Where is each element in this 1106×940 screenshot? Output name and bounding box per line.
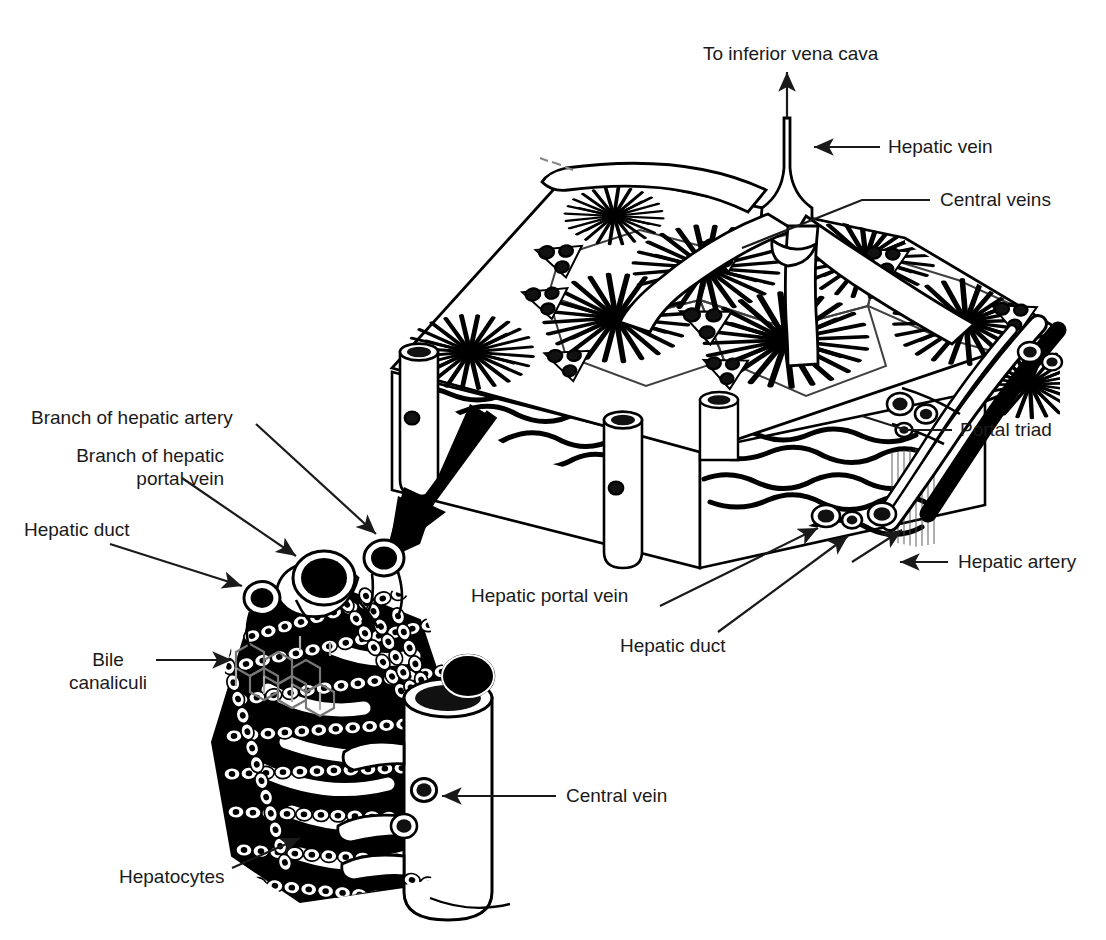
label-central-veins: Central veins xyxy=(940,188,1051,211)
label-hepatic-portal-vein: Hepatic portal vein xyxy=(471,584,628,607)
label-branch-portal-vein-line2: portal vein xyxy=(136,468,224,489)
label-hepatic-vein: Hepatic vein xyxy=(888,135,993,158)
label-branch-of-hepatic-artery: Branch of hepatic artery xyxy=(31,406,233,429)
label-hepatic-duct-left: Hepatic duct xyxy=(24,518,130,541)
label-bile-canaliculi: Bile canaliculi xyxy=(60,648,156,694)
lobule-detail xyxy=(212,540,510,920)
label-central-vein: Central vein xyxy=(566,784,667,807)
leader-hepatic-duct-left xyxy=(110,544,242,586)
leader-hepatic-artery xyxy=(852,530,902,562)
label-branch-of-hepatic-portal-vein: Branch of hepatic portal vein xyxy=(24,444,224,490)
label-bile-line1: Bile xyxy=(92,649,124,670)
label-hepatic-artery: Hepatic artery xyxy=(958,550,1076,573)
leader-branch-hepatic-artery xyxy=(256,424,376,534)
liver-tissue-block xyxy=(392,118,1087,568)
label-portal-triad: Portal triad xyxy=(960,418,1052,441)
label-to-inferior-vena-cava: To inferior vena cava xyxy=(703,42,878,65)
label-hepatic-duct-right: Hepatic duct xyxy=(620,634,726,657)
label-branch-portal-vein-line1: Branch of hepatic xyxy=(76,445,224,466)
label-bile-line2: canaliculi xyxy=(69,672,147,693)
figure-canvas: To inferior vena cava Hepatic vein Centr… xyxy=(0,0,1106,940)
corner-stipple xyxy=(540,158,573,170)
label-hepatocytes: Hepatocytes xyxy=(119,865,225,888)
